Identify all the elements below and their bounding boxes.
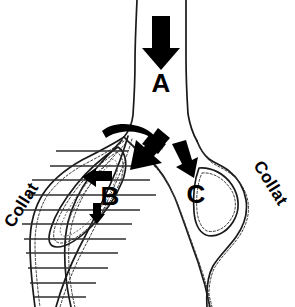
label-c: C bbox=[187, 179, 206, 209]
left-branch-outer-wall bbox=[30, 137, 124, 307]
label-b: B bbox=[101, 181, 120, 211]
arrow-a-shape bbox=[142, 16, 180, 70]
arrow-c-shape bbox=[172, 140, 198, 178]
main-vessel-right-wall bbox=[186, 0, 197, 141]
arrow-c-icon bbox=[172, 140, 198, 178]
main-vessel-left-wall bbox=[124, 0, 137, 137]
right-branch-right-wall-inner bbox=[199, 145, 249, 307]
label-a: A bbox=[152, 68, 171, 98]
left-branch-outline bbox=[30, 136, 132, 307]
anatomical-diagram-figure: A B C Collat Collat bbox=[0, 0, 295, 307]
label-collat-right: Collat bbox=[250, 157, 292, 209]
label-collat-left: Collat bbox=[0, 179, 42, 231]
vascular-diagram-canvas: A B C Collat Collat bbox=[0, 0, 295, 307]
arrow-a-icon bbox=[142, 16, 180, 70]
arrow-junction-icon bbox=[130, 128, 170, 170]
